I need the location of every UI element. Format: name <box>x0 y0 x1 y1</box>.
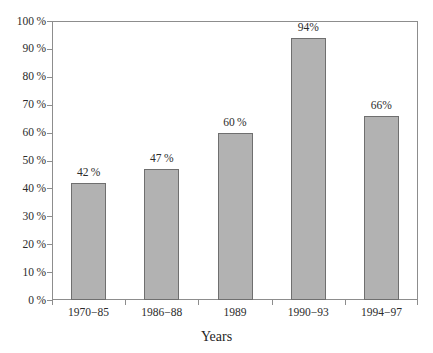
x-axis-tick-label: 1990−93 <box>288 306 329 319</box>
bar-group: 94% <box>291 21 326 300</box>
y-axis-tick-label: 90 % <box>0 43 46 55</box>
x-axis-tick-label: 1989 <box>224 306 247 319</box>
bar[interactable] <box>364 116 399 300</box>
y-axis-tick-label: 70 % <box>0 99 46 111</box>
bar[interactable] <box>218 133 253 300</box>
x-axis-tick-mark <box>417 300 418 305</box>
y-axis-tick-label: 80 % <box>0 71 46 83</box>
x-axis-tick-label: 1986−88 <box>141 306 182 319</box>
y-axis-tick-label: 20 % <box>0 239 46 251</box>
y-axis-tick-label: 60 % <box>0 127 46 139</box>
cut-off-text-sliver <box>95 0 205 5</box>
x-axis-tick-label: 1970−85 <box>68 306 109 319</box>
bar[interactable] <box>291 38 326 300</box>
x-axis-tick-mark <box>52 300 53 305</box>
y-axis-tick-labels: 0 %10 %20 %30 %40 %50 %60 %70 %80 %90 %1… <box>0 0 46 353</box>
y-axis-tick-label: 50 % <box>0 155 46 167</box>
bar-value-label: 66% <box>371 100 392 112</box>
y-axis-tick-label: 40 % <box>0 183 46 195</box>
bar-value-label: 60 % <box>223 117 246 129</box>
bars-layer: 42 %47 %60 %94%66% <box>52 21 418 300</box>
x-axis-tick-mark <box>125 300 126 305</box>
bar-value-label: 42 % <box>77 167 100 179</box>
bar-group: 60 % <box>218 21 253 300</box>
bar-chart-figure: 0 %10 %20 %30 %40 %50 %60 %70 %80 %90 %1… <box>0 0 433 353</box>
bar-value-label: 94% <box>298 22 319 34</box>
x-axis-title: Years <box>0 329 433 345</box>
x-axis-tick-mark <box>272 300 273 305</box>
x-axis-tick-mark <box>198 300 199 305</box>
x-axis-tick-mark <box>345 300 346 305</box>
y-axis-tick-label: 30 % <box>0 211 46 223</box>
x-axis-tick-labels: 1970−851986−8819891990−931994−97 <box>52 306 418 324</box>
bar-group: 66% <box>364 21 399 300</box>
bar-group: 42 % <box>71 21 106 300</box>
bar[interactable] <box>71 183 106 300</box>
bar-value-label: 47 % <box>150 153 173 165</box>
bar[interactable] <box>144 169 179 300</box>
bar-group: 47 % <box>144 21 179 300</box>
x-axis-tick-label: 1994−97 <box>361 306 402 319</box>
y-axis-tick-label: 0 % <box>0 295 46 307</box>
y-axis-tick-label: 10 % <box>0 267 46 279</box>
y-axis-tick-label: 100 % <box>0 16 46 28</box>
